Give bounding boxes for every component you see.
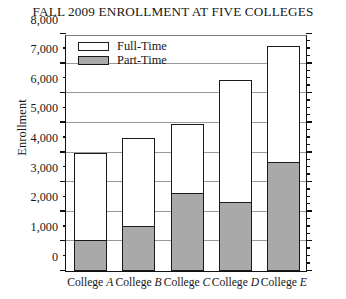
axis-tick-major bbox=[60, 121, 66, 122]
axis-tick-minor bbox=[306, 40, 310, 41]
axis-tick-minor bbox=[306, 136, 310, 137]
bar-segment-part-time bbox=[123, 226, 154, 270]
bar-segment-part-time bbox=[220, 202, 251, 270]
axis-tick-major bbox=[60, 151, 66, 152]
legend-item: Full-Time bbox=[78, 40, 186, 53]
axis-tick-major bbox=[306, 270, 312, 271]
bar-stack bbox=[267, 46, 300, 271]
axis-tick-major bbox=[60, 92, 66, 93]
x-axis-tick-label: College A bbox=[67, 276, 113, 289]
axis-tick-major bbox=[60, 240, 66, 241]
axis-tick-major bbox=[306, 210, 312, 211]
enrollment-bar-chart: FALL 2009 ENROLLMENT AT FIVE COLLEGES En… bbox=[0, 0, 346, 299]
y-axis-tick-label: 5,000 bbox=[31, 101, 58, 116]
axis-tick-major bbox=[306, 62, 312, 63]
x-axis-tick-label: College E bbox=[261, 276, 307, 289]
axis-tick-minor bbox=[63, 107, 67, 108]
y-axis-tick-label: 7,000 bbox=[31, 42, 58, 57]
axis-tick-minor bbox=[306, 129, 310, 130]
y-axis-tick-label: 0 bbox=[52, 249, 58, 264]
axis-tick-minor bbox=[306, 47, 310, 48]
axis-tick-major bbox=[306, 92, 312, 93]
axis-tick-minor bbox=[306, 84, 310, 85]
axis-tick-major bbox=[306, 240, 312, 241]
axis-tick-major bbox=[60, 62, 66, 63]
axis-tick-major bbox=[60, 33, 66, 34]
bar-stack bbox=[122, 138, 155, 271]
axis-tick-minor bbox=[306, 225, 310, 226]
bar-segment-part-time bbox=[268, 162, 299, 270]
axis-tick-minor bbox=[63, 136, 67, 137]
y-axis-tick-label: 2,000 bbox=[31, 190, 58, 205]
axis-tick-minor bbox=[306, 114, 310, 115]
chart-legend: Full-TimePart-Time bbox=[78, 40, 186, 68]
axis-tick-minor bbox=[306, 203, 310, 204]
bar-stack bbox=[74, 153, 107, 272]
axis-tick-minor bbox=[306, 188, 310, 189]
y-axis-tick-label: 4,000 bbox=[31, 131, 58, 146]
bar-stack bbox=[171, 124, 204, 271]
axis-tick-minor bbox=[63, 196, 67, 197]
legend-item: Part-Time bbox=[78, 54, 186, 67]
axis-tick-minor bbox=[63, 255, 67, 256]
axis-tick-minor bbox=[306, 196, 310, 197]
legend-swatch-full bbox=[78, 42, 109, 52]
legend-label: Part-Time bbox=[117, 53, 167, 68]
axis-tick-minor bbox=[306, 99, 310, 100]
axis-tick-major bbox=[60, 270, 66, 271]
axis-tick-minor bbox=[306, 255, 310, 256]
axis-tick-minor bbox=[306, 173, 310, 174]
y-axis-title: Enrollment bbox=[15, 83, 30, 173]
bar-segment-part-time bbox=[75, 240, 106, 270]
axis-tick-major bbox=[306, 181, 312, 182]
x-axis-tick-label: College D bbox=[212, 276, 259, 289]
x-axis-tick-label: College B bbox=[116, 276, 162, 289]
axis-tick-minor bbox=[306, 262, 310, 263]
axis-tick-minor bbox=[306, 218, 310, 219]
plot-area: 01,0002,0003,0004,0005,0006,0007,0008,00… bbox=[65, 35, 307, 272]
legend-swatch-part bbox=[78, 56, 109, 66]
axis-tick-minor bbox=[306, 77, 310, 78]
axis-tick-major bbox=[306, 121, 312, 122]
y-axis-tick-label: 8,000 bbox=[31, 12, 58, 27]
axis-tick-minor bbox=[306, 166, 310, 167]
axis-tick-minor bbox=[306, 233, 310, 234]
axis-tick-major bbox=[60, 181, 66, 182]
y-axis-tick-label: 1,000 bbox=[31, 219, 58, 234]
bar-stack bbox=[219, 80, 252, 271]
legend-label: Full-Time bbox=[117, 39, 167, 54]
axis-tick-minor bbox=[306, 70, 310, 71]
y-axis-tick-label: 3,000 bbox=[31, 160, 58, 175]
axis-tick-minor bbox=[63, 77, 67, 78]
axis-tick-minor bbox=[63, 166, 67, 167]
y-axis-tick-label: 6,000 bbox=[31, 71, 58, 86]
x-axis-tick-label: College C bbox=[164, 276, 211, 289]
bar-segment-part-time bbox=[172, 193, 203, 270]
axis-tick-major bbox=[306, 33, 312, 34]
axis-tick-minor bbox=[63, 225, 67, 226]
axis-tick-minor bbox=[306, 247, 310, 248]
axis-tick-minor bbox=[306, 144, 310, 145]
axis-tick-major bbox=[306, 151, 312, 152]
axis-tick-minor bbox=[63, 47, 67, 48]
axis-tick-minor bbox=[306, 159, 310, 160]
axis-tick-minor bbox=[306, 107, 310, 108]
axis-tick-major bbox=[60, 210, 66, 211]
axis-tick-minor bbox=[306, 55, 310, 56]
